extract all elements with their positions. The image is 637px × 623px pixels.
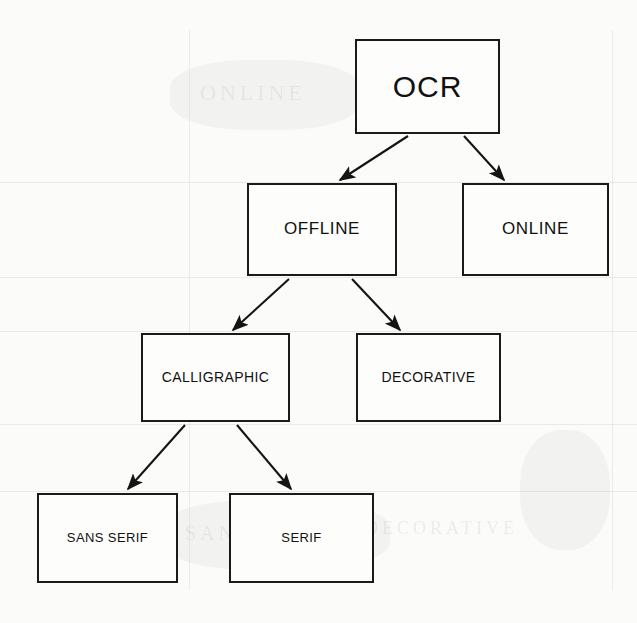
node-ocr[interactable]: OCR [355, 39, 500, 134]
node-offline-label: OFFLINE [284, 220, 360, 239]
node-offline[interactable]: OFFLINE [247, 183, 397, 276]
diagram-canvas: OCR ONLINE SANS SERIF DECORATIVE OCR OFF… [0, 0, 637, 623]
edge-offline-to-decorative [352, 279, 400, 330]
node-ocr-label: OCR [393, 70, 463, 103]
edge-offline-to-calligraphic [233, 279, 289, 330]
edge-calligraphic-to-serif [237, 425, 291, 489]
edge-ocr-to-online [464, 136, 504, 180]
edge-ocr-to-offline [340, 136, 408, 180]
node-sans-serif-label: SANS SERIF [67, 531, 148, 545]
node-online-label: ONLINE [502, 220, 569, 239]
node-serif-label: SERIF [281, 531, 321, 545]
node-online[interactable]: ONLINE [462, 183, 609, 276]
node-sans-serif[interactable]: SANS SERIF [37, 493, 178, 583]
node-serif[interactable]: SERIF [229, 493, 374, 583]
edge-calligraphic-to-sans_serif [128, 425, 185, 489]
node-calligraphic-label: CALLIGRAPHIC [162, 370, 270, 385]
node-calligraphic[interactable]: CALLIGRAPHIC [141, 333, 290, 422]
node-decorative-label: DECORATIVE [382, 370, 476, 385]
node-decorative[interactable]: DECORATIVE [356, 333, 501, 422]
